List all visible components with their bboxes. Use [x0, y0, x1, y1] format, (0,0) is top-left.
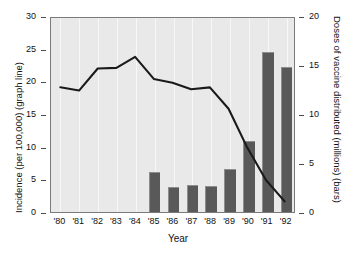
left-axis-tick-mark [41, 50, 46, 51]
x-axis-tick-label: '87 [182, 216, 201, 226]
x-axis-tick-label: '88 [201, 216, 220, 226]
right-axis-tick-label: 0 [309, 208, 314, 217]
x-axis-tick-label: '90 [238, 216, 257, 226]
x-axis-tick-label: '85 [144, 216, 163, 226]
left-axis-tick-mark [41, 148, 46, 149]
right-axis-tick-label: 15 [309, 61, 319, 70]
right-axis-tick-label: 5 [309, 159, 314, 168]
incidence-line [60, 57, 284, 201]
x-axis-tick-label: '84 [125, 216, 144, 226]
right-axis-tick-mark [299, 164, 304, 165]
right-axis-title: Doses of vaccine distributed (millions) … [332, 16, 343, 203]
chart-figure: Incidence (per 100,000) (graph line) Dos… [0, 0, 356, 258]
left-axis-tick-mark [41, 17, 46, 18]
left-axis-tick-mark [41, 82, 46, 83]
x-axis-tick-label: '92 [276, 216, 295, 226]
x-axis-tick-label: '83 [107, 216, 126, 226]
x-axis-tick-label: '82 [88, 216, 107, 226]
x-axis-tick-label: '81 [69, 216, 88, 226]
left-axis-tick-label: 30 [26, 12, 36, 21]
left-axis-tick-label: 0 [31, 208, 36, 217]
left-axis-tick-label: 15 [26, 110, 36, 119]
plot-area [50, 17, 295, 213]
left-axis-tick-mark [41, 180, 46, 181]
line-series [51, 18, 294, 212]
left-axis-tick-label: 10 [26, 143, 36, 152]
left-axis-tick-mark [41, 213, 46, 214]
x-axis-tick-label: '91 [257, 216, 276, 226]
left-axis-tick-label: 20 [26, 77, 36, 86]
x-axis-title: Year [0, 233, 356, 244]
right-axis-tick-label: 10 [309, 110, 319, 119]
right-axis-tick-mark [299, 66, 304, 67]
x-axis-tick-label: '80 [50, 216, 69, 226]
left-axis-tick-label: 5 [31, 175, 36, 184]
right-axis-tick-label: 20 [309, 12, 319, 21]
right-axis: 05101520 [299, 0, 327, 258]
x-axis-tick-label: '86 [163, 216, 182, 226]
left-axis-tick-mark [41, 115, 46, 116]
right-axis-tick-mark [299, 115, 304, 116]
right-axis-tick-mark [299, 17, 304, 18]
left-axis-tick-label: 25 [26, 45, 36, 54]
left-axis: 051015202530 [18, 0, 46, 258]
right-axis-tick-mark [299, 213, 304, 214]
x-axis-tick-label: '89 [220, 216, 239, 226]
